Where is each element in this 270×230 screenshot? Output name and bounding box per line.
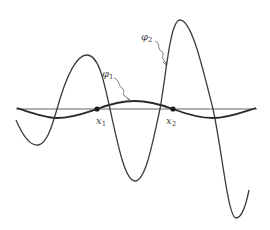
wave-diagram: φ1 φ2 x1 x2 [0, 0, 270, 230]
leader-phi2 [155, 41, 166, 64]
curve-phi2 [16, 20, 249, 218]
label-phi1: φ1 [102, 68, 113, 81]
curve-phi1 [17, 101, 256, 118]
point-x2 [170, 106, 175, 111]
point-x1 [94, 106, 99, 111]
label-x2: x2 [166, 115, 176, 128]
label-x1: x1 [96, 115, 106, 128]
label-phi2: φ2 [141, 31, 152, 44]
leader-phi1 [114, 78, 130, 100]
